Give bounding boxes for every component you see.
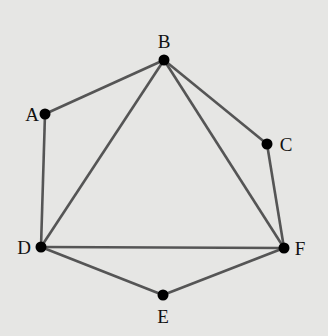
labels-group: ABCDEF [17, 31, 305, 327]
edge-b-c [164, 60, 267, 144]
node-label-e: E [157, 306, 169, 327]
node-label-b: B [158, 31, 171, 52]
node-label-f: F [295, 238, 306, 259]
node-e [158, 290, 169, 301]
node-f [279, 243, 290, 254]
edge-a-d [41, 114, 45, 247]
graph-svg: ABCDEF [0, 0, 328, 336]
edge-d-f [41, 247, 284, 248]
graph-diagram: ABCDEF [0, 0, 328, 336]
nodes-group [36, 55, 290, 301]
edge-b-f [164, 60, 284, 248]
node-label-d: D [17, 237, 31, 258]
edge-d-e [41, 247, 163, 295]
edge-e-f [163, 248, 284, 295]
node-a [40, 109, 51, 120]
node-label-a: A [25, 104, 39, 125]
node-label-c: C [280, 134, 293, 155]
node-c [262, 139, 273, 150]
edges-group [41, 60, 284, 295]
node-d [36, 242, 47, 253]
node-b [159, 55, 170, 66]
